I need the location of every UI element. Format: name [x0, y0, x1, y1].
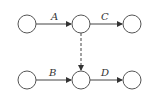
- node-3: [123, 15, 141, 33]
- edge-label-a: A: [50, 11, 58, 22]
- node-2: [72, 15, 90, 33]
- node-1: [18, 15, 36, 33]
- edge-label-d: D: [100, 67, 109, 78]
- edge-label-c: C: [101, 11, 109, 22]
- node-4: [18, 71, 36, 89]
- edge-label-b: B: [48, 67, 56, 78]
- node-5: [72, 71, 90, 89]
- node-6: [123, 71, 141, 89]
- activity-network-diagram: A C B D: [0, 0, 151, 96]
